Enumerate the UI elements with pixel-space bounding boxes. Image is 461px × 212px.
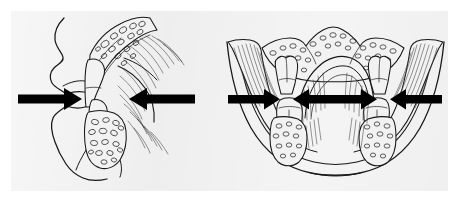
lip-force-arrow [18, 88, 82, 110]
mandibular-alveolar-bone-left [270, 117, 307, 166]
tongue-force-arrow [129, 88, 195, 110]
mandibular-alveolar-bone-right [359, 117, 396, 166]
maxillary-molar-left [275, 56, 297, 94]
panel-sagittal [0, 0, 210, 212]
maxillary-molar-right [368, 56, 390, 94]
panel-coronal [210, 0, 461, 212]
tongue-force-arrow-bidirectional [293, 89, 377, 110]
tongue [118, 58, 157, 122]
figure-root [0, 0, 461, 212]
